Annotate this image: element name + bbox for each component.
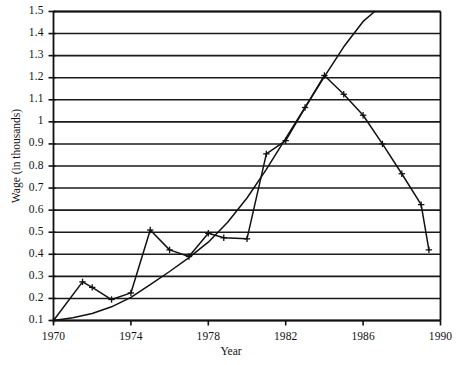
- y-tick-label: 1.2: [10, 70, 44, 82]
- x-tick-label: 1974: [108, 330, 154, 342]
- chart-canvas: [0, 0, 462, 365]
- axis-ticks: [49, 12, 441, 326]
- y-tick-label: 1.4: [10, 26, 44, 38]
- y-tick-label: 1.3: [10, 48, 44, 60]
- y-tick-label: 0.1: [10, 313, 44, 325]
- data-point-marker: [221, 235, 227, 241]
- data-point-marker: [426, 247, 432, 253]
- x-tick-label: 1970: [31, 330, 77, 342]
- chart-figure: 0.10.20.30.40.50.60.70.80.911.11.21.31.4…: [0, 0, 462, 365]
- y-tick-label: 0.3: [10, 269, 44, 281]
- x-tick-label: 1982: [263, 330, 309, 342]
- grid-lines: [54, 12, 441, 321]
- x-tick-label: 1986: [340, 330, 386, 342]
- x-axis-title: Year: [188, 345, 274, 357]
- y-axis-title: Wage (in thousands): [10, 96, 22, 216]
- data-point-marker: [244, 236, 250, 242]
- y-tick-label: 1.5: [10, 4, 44, 16]
- x-tick-label: 1978: [185, 330, 231, 342]
- y-tick-label: 0.2: [10, 291, 44, 303]
- y-tick-label: 0.5: [10, 225, 44, 237]
- x-tick-label: 1990: [418, 330, 462, 342]
- series-line-observed-wage: [54, 76, 429, 321]
- y-tick-label: 0.4: [10, 247, 44, 259]
